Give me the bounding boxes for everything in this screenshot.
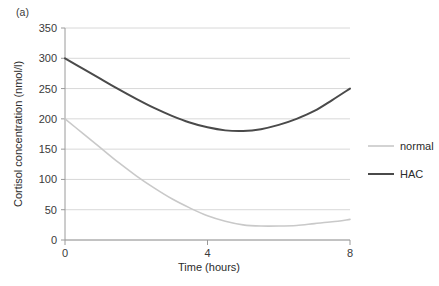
chart-screenshot: (a) 050100150200250300350 048 Cortisol c… [0,0,439,286]
x-tick-label: 4 [204,247,210,259]
series-line-hac [65,58,350,131]
legend-label-hac: HAC [400,168,423,180]
y-tick-label: 150 [39,143,57,155]
y-axis-ticks: 050100150200250300350 [39,22,65,246]
x-axis-title: Time (hours) [178,261,240,273]
data-series [65,58,350,226]
x-tick-label: 0 [62,247,68,259]
y-tick-label: 0 [51,234,57,246]
axes [65,28,350,240]
y-tick-label: 300 [39,52,57,64]
x-axis-ticks: 048 [62,240,353,259]
legend-label-normal: normal [400,140,434,152]
cortisol-line-chart: 050100150200250300350 048 Cortisol conce… [0,0,439,286]
y-tick-label: 100 [39,173,57,185]
gridlines [65,28,350,240]
x-tick-label: 8 [347,247,353,259]
y-tick-label: 50 [45,204,57,216]
y-tick-label: 250 [39,83,57,95]
y-tick-label: 200 [39,113,57,125]
legend: normalHAC [368,140,434,180]
y-axis-title: Cortisol concentration (nmol/l) [12,61,24,207]
y-tick-label: 350 [39,22,57,34]
